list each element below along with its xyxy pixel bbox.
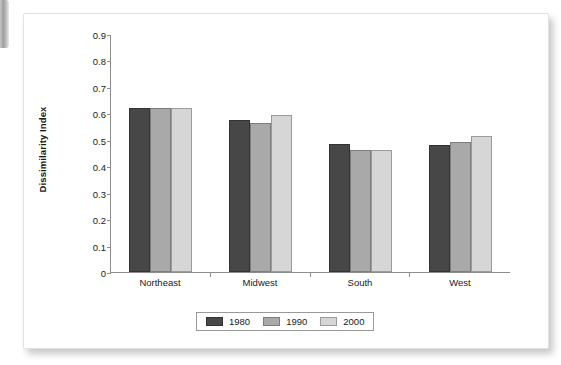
bar-west-2000 [471,136,492,272]
y-tick-label: 0.1 [93,241,106,252]
scan-edge-artifact [0,0,9,48]
bar-group [311,35,411,272]
bar-group [111,35,211,272]
y-tick-mark [107,273,111,274]
x-axis-label-midwest: Midwest [210,277,310,288]
y-tick-label: 0.7 [93,82,106,93]
x-axis-label-south: South [310,277,410,288]
y-tick-label: 0.5 [93,135,106,146]
bar-south-1990 [350,150,371,272]
y-tick-label: 0.9 [93,30,106,41]
bar-northeast-2000 [171,108,192,272]
legend-item-1980: 1980 [206,316,250,327]
y-tick-label: 0.6 [93,109,106,120]
legend-label-1990: 1990 [286,316,307,327]
y-tick-label: 0.3 [93,188,106,199]
bar-chart-figure: Dissimilarity Index 0.90.80.70.60.50.40.… [24,14,548,348]
bar-group [211,35,311,272]
bar-northeast-1990 [150,108,171,272]
plot-area: 0.90.80.70.60.50.40.30.20.10 [110,35,510,273]
bar-south-1980 [329,144,350,272]
bar-midwest-2000 [271,115,292,272]
y-tick-label: 0.8 [93,56,106,67]
y-tick-label: 0 [101,268,106,279]
legend-swatch-2000 [320,317,337,326]
legend-swatch-1990 [263,317,280,326]
y-axis-title: Dissimilarity Index [37,75,48,225]
legend-item-1990: 1990 [263,316,307,327]
y-tick-label: 0.2 [93,215,106,226]
bar-midwest-1980 [229,120,250,272]
legend-swatch-1980 [206,317,223,326]
legend-label-2000: 2000 [343,316,364,327]
bars-layer [111,35,510,272]
bar-west-1980 [429,145,450,272]
bar-midwest-1990 [250,123,271,272]
y-tick-label: 0.4 [93,162,106,173]
bar-west-1990 [450,142,471,272]
x-axis-label-northeast: Northeast [110,277,210,288]
bar-northeast-1980 [129,108,150,272]
bar-south-2000 [371,150,392,272]
bar-group [410,35,510,272]
chart-legend: 198019902000 [196,312,374,331]
x-axis-labels: NortheastMidwestSouthWest [110,277,510,288]
legend-label-1980: 1980 [229,316,250,327]
x-axis-label-west: West [410,277,510,288]
legend-item-2000: 2000 [320,316,364,327]
chart-card: Dissimilarity Index 0.90.80.70.60.50.40.… [23,13,549,349]
